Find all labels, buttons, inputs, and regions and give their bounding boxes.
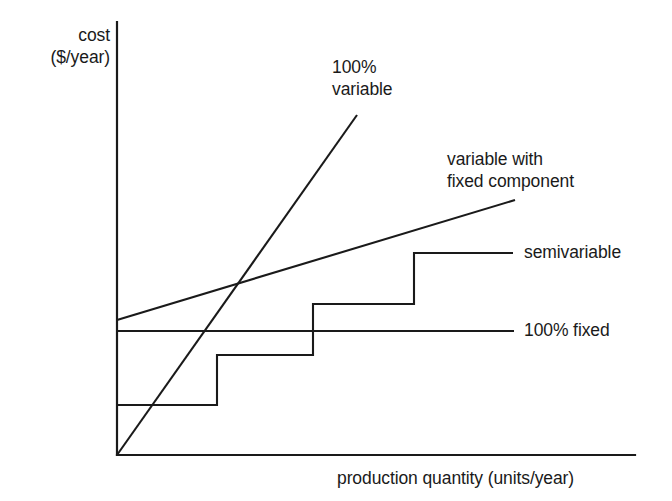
- annotation-100-percent-variable-line2: variable: [332, 78, 392, 100]
- annotation-100-percent-fixed: 100% fixed: [524, 320, 610, 341]
- annotation-100-percent-variable-line1: 100%: [332, 56, 392, 78]
- series-line-semivariable: [117, 253, 513, 405]
- y-axis-label: cost ($/year): [0, 24, 110, 68]
- cost-behavior-chart: cost ($/year) production quantity (units…: [0, 0, 672, 501]
- annotation-variable-with-fixed-component: variable with fixed component: [447, 148, 574, 192]
- annotation-variable-with-fixed-component-line2: fixed component: [447, 170, 574, 192]
- y-axis-label-line1: cost: [0, 24, 110, 46]
- annotation-variable-with-fixed-component-line1: variable with: [447, 148, 574, 170]
- x-axis-label: production quantity (units/year): [337, 468, 574, 489]
- annotation-semivariable: semivariable: [524, 242, 621, 263]
- series-line-variable-with-fixed-component: [117, 200, 515, 320]
- annotation-100-percent-variable: 100% variable: [332, 56, 392, 100]
- y-axis-label-line2: ($/year): [0, 46, 110, 68]
